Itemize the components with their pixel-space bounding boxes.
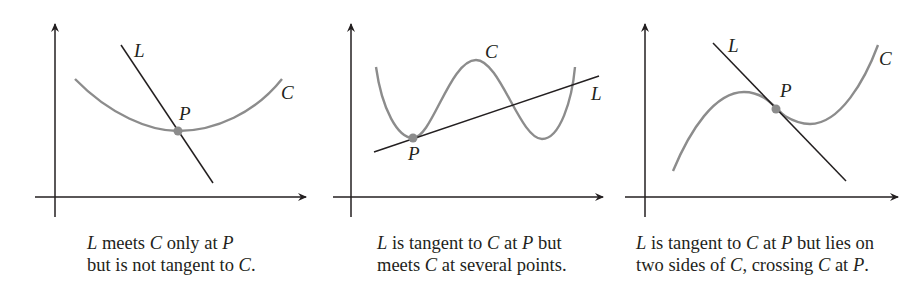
caption-line-1: L is tangent to C at P but lies on xyxy=(636,232,874,254)
caption-line-1: L meets C only at P xyxy=(87,232,256,254)
label-l: L xyxy=(133,40,145,61)
label-p: P xyxy=(779,80,792,101)
label-l: L xyxy=(590,83,602,104)
caption-text: , crossing xyxy=(742,255,818,275)
panel-1: L C P xyxy=(35,24,306,217)
caption-var: C xyxy=(818,255,830,275)
caption-var: L xyxy=(636,233,646,253)
panel-2: C L P xyxy=(333,24,603,217)
caption-text: at xyxy=(499,233,522,253)
caption-line-2: two sides of C, crossing C at P. xyxy=(636,254,874,276)
caption-panel-1: L meets C only at P but is not tangent t… xyxy=(87,232,256,276)
caption-var: L xyxy=(87,233,97,253)
caption-var: P xyxy=(853,255,864,275)
point-p xyxy=(772,105,781,114)
caption-text: two sides of xyxy=(636,255,730,275)
line-l xyxy=(713,43,846,181)
caption-var: P xyxy=(522,233,533,253)
curve-c xyxy=(376,60,575,139)
label-c: C xyxy=(879,48,892,69)
caption-text: is tangent to xyxy=(646,233,746,253)
caption-line-2: meets C at several points. xyxy=(377,254,567,276)
label-p: P xyxy=(178,103,191,124)
caption-line-2: but is not tangent to C. xyxy=(87,254,256,276)
caption-panel-3: L is tangent to C at P but lies on two s… xyxy=(636,232,874,276)
caption-text: is tangent to xyxy=(387,233,487,253)
caption-var: C xyxy=(487,233,499,253)
line-l xyxy=(121,45,213,183)
caption-panel-2: L is tangent to C at P but meets C at se… xyxy=(377,232,567,276)
caption-text: meets xyxy=(377,255,425,275)
label-l: L xyxy=(727,35,739,56)
caption-text: only at xyxy=(162,233,222,253)
caption-text: but xyxy=(533,233,561,253)
panel-3: L C P xyxy=(625,24,898,217)
caption-var: L xyxy=(377,233,387,253)
label-c: C xyxy=(281,82,294,103)
caption-var: C xyxy=(150,233,162,253)
caption-var: C xyxy=(425,255,437,275)
point-p xyxy=(409,134,418,143)
caption-text: . xyxy=(864,255,869,275)
caption-text: at xyxy=(758,233,781,253)
caption-var: C xyxy=(239,255,251,275)
caption-text: at several points. xyxy=(437,255,566,275)
caption-text: . xyxy=(251,255,256,275)
caption-text: but is not tangent to xyxy=(87,255,239,275)
point-p xyxy=(174,127,183,136)
caption-text: at xyxy=(830,255,853,275)
caption-var: P xyxy=(222,233,233,253)
caption-text: but lies on xyxy=(792,233,874,253)
caption-var: C xyxy=(746,233,758,253)
caption-text: meets xyxy=(97,233,149,253)
caption-line-1: L is tangent to C at P but xyxy=(377,232,567,254)
caption-var: P xyxy=(781,233,792,253)
label-c: C xyxy=(485,41,498,62)
caption-var: C xyxy=(730,255,742,275)
label-p: P xyxy=(407,143,420,164)
